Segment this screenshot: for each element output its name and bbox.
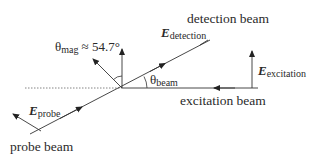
e-probe-subscript: probe xyxy=(38,108,61,119)
e-excitation-symbol: E xyxy=(258,63,267,78)
e-probe-symbol: E xyxy=(29,103,38,118)
e-detection-label: Edetection xyxy=(161,26,206,41)
theta-beam-arc xyxy=(144,77,147,89)
probe-beam-label: probe beam xyxy=(10,140,73,154)
e-probe-label: Eprobe xyxy=(29,104,60,119)
excitation-beam-label: excitation beam xyxy=(180,94,266,108)
detection-beam-arrow xyxy=(150,64,165,72)
detection-beam-label: detection beam xyxy=(187,12,269,26)
probe-beam-arrow xyxy=(60,107,82,119)
theta-mag-label: θmag ≈ 54.7° xyxy=(55,40,120,55)
theta-beam-subscript: beam xyxy=(156,77,178,88)
e-detection-subscript: detection xyxy=(170,30,207,41)
magic-angle-arrow xyxy=(93,59,122,88)
theta-mag-arc xyxy=(114,76,123,80)
theta-mag-subscript: mag xyxy=(61,44,78,55)
e-excitation-subscript: excitation xyxy=(267,68,306,79)
e-excitation-label: Eexcitation xyxy=(258,64,306,79)
theta-mag-value: ≈ 54.7° xyxy=(82,39,120,54)
theta-beam-label: θbeam xyxy=(150,73,178,88)
e-detection-symbol: E xyxy=(161,25,170,40)
